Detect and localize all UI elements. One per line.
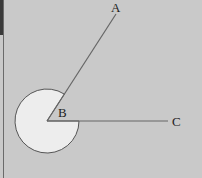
label-a: A: [111, 0, 121, 15]
label-c: C: [172, 114, 181, 129]
angle-diagram: A B C: [0, 0, 202, 178]
label-b: B: [58, 105, 67, 120]
diagram-canvas: A B C: [0, 0, 202, 178]
